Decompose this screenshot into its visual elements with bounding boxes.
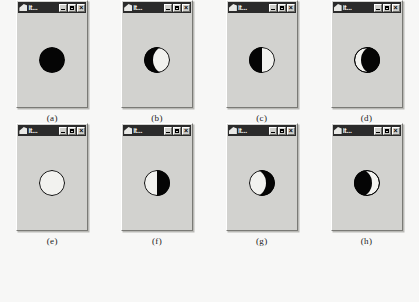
close-button[interactable]: ×: [287, 4, 295, 12]
window-title: it...: [133, 127, 164, 134]
client-area: [18, 137, 86, 229]
close-button[interactable]: ×: [77, 4, 85, 12]
client-area: [228, 14, 296, 106]
window-title: it...: [133, 4, 164, 11]
panel-d: it...×(d): [314, 0, 419, 123]
maximize-button[interactable]: [173, 127, 181, 135]
window-controls: ×: [164, 4, 190, 12]
maximize-button[interactable]: [278, 127, 286, 135]
title-bar[interactable]: it...×: [123, 2, 191, 13]
maximize-button[interactable]: [173, 4, 181, 12]
moon-disc-new-moon: [39, 47, 65, 73]
window-controls: ×: [374, 4, 400, 12]
window-controls: ×: [59, 4, 85, 12]
close-button[interactable]: ×: [392, 4, 400, 12]
client-area: [18, 14, 86, 106]
panel-caption: (g): [256, 236, 268, 246]
app-icon[interactable]: [229, 127, 237, 134]
window-title: it...: [238, 4, 269, 11]
window-title: it...: [28, 4, 59, 11]
close-icon: ×: [394, 4, 398, 10]
close-icon: ×: [394, 127, 398, 133]
title-bar[interactable]: it...×: [333, 2, 401, 13]
app-icon[interactable]: [334, 4, 342, 11]
minimize-button[interactable]: [269, 127, 277, 135]
moon-base: [39, 170, 65, 196]
window-controls: ×: [59, 127, 85, 135]
window-title: it...: [343, 127, 374, 134]
moon-terminator: [157, 170, 170, 196]
moon-terminator: [249, 47, 262, 73]
close-icon: ×: [289, 127, 293, 133]
panel-caption: (b): [151, 113, 163, 123]
app-window[interactable]: it...×: [16, 123, 88, 231]
app-window[interactable]: it...×: [331, 123, 403, 231]
moon-disc-waning-gibbous: [354, 170, 380, 196]
close-button[interactable]: ×: [392, 127, 400, 135]
window-title: it...: [343, 4, 374, 11]
moon-disc-first-quarter: [144, 170, 170, 196]
moon-limb: [144, 47, 170, 73]
title-bar[interactable]: it...×: [18, 125, 86, 136]
moon-limb: [354, 47, 380, 73]
window-controls: ×: [164, 127, 190, 135]
window-title: it...: [238, 127, 269, 134]
app-icon[interactable]: [334, 127, 342, 134]
panel-caption: (e): [47, 236, 59, 246]
minimize-button[interactable]: [374, 4, 382, 12]
minimize-button[interactable]: [164, 4, 172, 12]
panel-e: it...×(e): [0, 123, 105, 246]
app-window[interactable]: it...×: [331, 0, 403, 108]
moon-disc-waxing-crescent: [249, 170, 275, 196]
close-button[interactable]: ×: [287, 127, 295, 135]
client-area: [228, 137, 296, 229]
panel-b: it...×(b): [105, 0, 210, 123]
close-button[interactable]: ×: [77, 127, 85, 135]
close-icon: ×: [79, 127, 83, 133]
moon-limb: [249, 170, 275, 196]
client-area: [123, 137, 191, 229]
panel-caption: (f): [152, 236, 163, 246]
minimize-button[interactable]: [59, 4, 67, 12]
window-controls: ×: [374, 127, 400, 135]
maximize-button[interactable]: [68, 4, 76, 12]
panel-c: it...×(c): [210, 0, 315, 123]
minimize-button[interactable]: [374, 127, 382, 135]
app-icon[interactable]: [124, 4, 132, 11]
title-bar[interactable]: it...×: [333, 125, 401, 136]
title-bar[interactable]: it...×: [18, 2, 86, 13]
figure-caption: [0, 294, 419, 302]
window-controls: ×: [269, 127, 295, 135]
panel-a: it...×(a): [0, 0, 105, 123]
window-title: it...: [28, 127, 59, 134]
close-button[interactable]: ×: [182, 127, 190, 135]
minimize-button[interactable]: [59, 127, 67, 135]
panel-caption: (a): [47, 113, 59, 123]
app-icon[interactable]: [19, 127, 27, 134]
app-window[interactable]: it...×: [121, 123, 193, 231]
title-bar[interactable]: it...×: [228, 125, 296, 136]
maximize-button[interactable]: [68, 127, 76, 135]
app-window[interactable]: it...×: [16, 0, 88, 108]
minimize-button[interactable]: [164, 127, 172, 135]
app-window[interactable]: it...×: [226, 0, 298, 108]
close-icon: ×: [184, 127, 188, 133]
moon-limb: [354, 170, 380, 196]
maximize-button[interactable]: [383, 4, 391, 12]
window-controls: ×: [269, 4, 295, 12]
title-bar[interactable]: it...×: [123, 125, 191, 136]
app-window[interactable]: it...×: [226, 123, 298, 231]
app-icon[interactable]: [19, 4, 27, 11]
close-icon: ×: [289, 4, 293, 10]
app-icon[interactable]: [229, 4, 237, 11]
maximize-button[interactable]: [383, 127, 391, 135]
app-window[interactable]: it...×: [121, 0, 193, 108]
close-icon: ×: [79, 4, 83, 10]
maximize-button[interactable]: [278, 4, 286, 12]
close-button[interactable]: ×: [182, 4, 190, 12]
app-icon[interactable]: [124, 127, 132, 134]
minimize-button[interactable]: [269, 4, 277, 12]
moon-disc-last-quarter: [249, 47, 275, 73]
title-bar[interactable]: it...×: [228, 2, 296, 13]
panel-caption: (h): [361, 236, 373, 246]
